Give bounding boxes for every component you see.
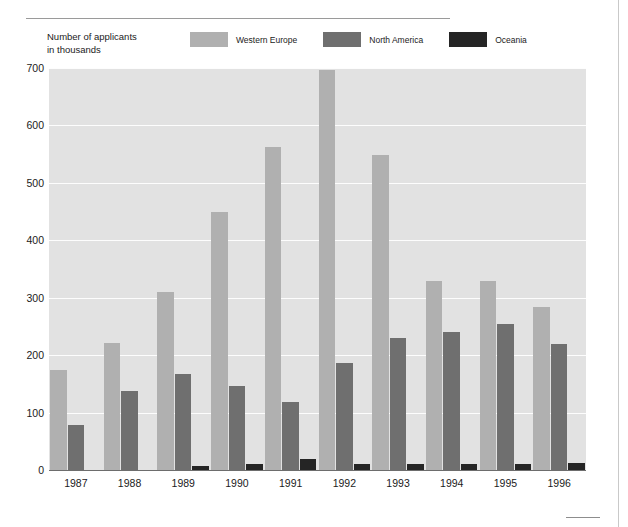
y-axis-tick-label: 300	[4, 292, 44, 304]
bar	[121, 391, 138, 470]
plot-wrapper: 0100200300400500600700 19871988198919901…	[0, 0, 628, 527]
bar-group	[425, 68, 479, 470]
bar-group	[371, 68, 425, 470]
bar-group	[49, 68, 103, 470]
bar	[50, 370, 67, 470]
x-axis-tick-label: 1995	[494, 477, 517, 489]
bar	[282, 402, 299, 470]
x-axis-tick-label: 1989	[172, 477, 195, 489]
x-axis-tick-label: 1993	[386, 477, 409, 489]
x-axis-line	[49, 470, 586, 471]
bar	[533, 307, 550, 470]
bar	[426, 281, 443, 471]
x-axis-tick-label: 1994	[440, 477, 463, 489]
bar-group	[210, 68, 264, 470]
x-axis-tick-label: 1990	[225, 477, 248, 489]
y-axis-tick-label: 0	[30, 464, 44, 476]
y-axis-tick-label: 700	[4, 62, 44, 74]
bar	[372, 155, 389, 470]
bar-group	[532, 68, 586, 470]
y-axis-tick-label: 400	[4, 234, 44, 246]
bar	[497, 324, 514, 470]
bar	[229, 386, 246, 470]
bar-group	[479, 68, 533, 470]
bar	[568, 463, 585, 470]
x-axis-tick-label: 1996	[547, 477, 570, 489]
bar	[175, 374, 192, 470]
bar	[319, 70, 336, 470]
y-axis-tick-label: 600	[4, 119, 44, 131]
bar	[336, 363, 353, 470]
y-axis-tick-label: 100	[4, 407, 44, 419]
bar	[68, 425, 85, 470]
y-axis-tick-label: 500	[4, 177, 44, 189]
plot-area	[49, 68, 586, 470]
bar	[443, 332, 460, 470]
bar	[300, 459, 317, 470]
x-axis-tick-label: 1988	[118, 477, 141, 489]
bar	[104, 343, 121, 470]
x-axis-tick-label: 1991	[279, 477, 302, 489]
x-axis-tick-label: 1992	[333, 477, 356, 489]
x-axis-tick-label: 1987	[64, 477, 87, 489]
bar-group	[103, 68, 157, 470]
bar	[480, 281, 497, 471]
bar	[211, 212, 228, 470]
bar	[390, 338, 407, 470]
bar	[551, 344, 568, 470]
bar	[265, 147, 282, 470]
bar-group	[264, 68, 318, 470]
figure-page: Number of applicants in thousands Wester…	[0, 0, 628, 527]
bar-group	[318, 68, 372, 470]
bar	[157, 292, 174, 470]
y-axis-tick-label: 200	[4, 349, 44, 361]
bar-group	[156, 68, 210, 470]
